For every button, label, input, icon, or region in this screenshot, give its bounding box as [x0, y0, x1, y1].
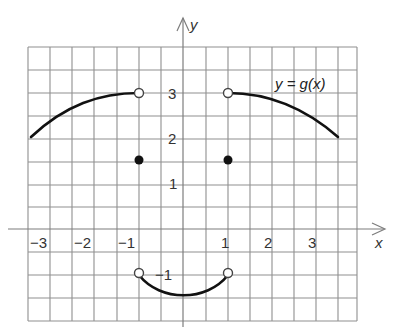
closed-point-marker: [135, 156, 144, 165]
y-tick-label: 1: [169, 175, 177, 192]
graph-canvas: y x −3 −2 −1 1 2 3 3 2 1 −1 y = g(x): [0, 0, 402, 331]
x-tick-label: 1: [221, 234, 229, 251]
x-axis: [8, 223, 385, 235]
open-point-marker: [135, 89, 144, 98]
y-tick-label: 2: [168, 130, 176, 147]
x-tick-label: −2: [74, 234, 91, 251]
y-axis-label: y: [189, 16, 199, 33]
function-label: y = g(x): [274, 75, 325, 92]
y-axis: [177, 18, 189, 327]
y-tick-label: 3: [168, 85, 176, 102]
y-tick-label: −1: [155, 266, 172, 283]
left-branch-curve: [31, 93, 139, 137]
x-tick-label: 2: [264, 234, 272, 251]
x-tick-label: −1: [118, 234, 135, 251]
x-axis-label: x: [374, 234, 383, 251]
x-tick-label: −3: [30, 234, 47, 251]
x-tick-label: 3: [308, 234, 316, 251]
right-branch-curve: [228, 93, 338, 137]
open-point-marker: [224, 269, 233, 278]
open-point-marker: [135, 269, 144, 278]
closed-point-marker: [224, 156, 233, 165]
open-point-marker: [224, 89, 233, 98]
